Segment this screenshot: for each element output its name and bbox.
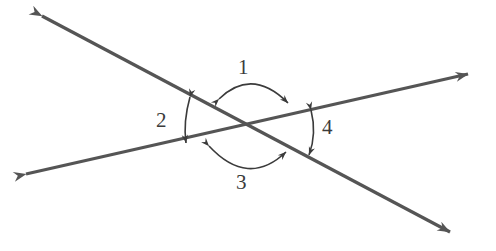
angle-4-arc [309,110,314,155]
angle-3-arc [209,146,286,169]
angle-label-3: 3 [236,172,247,193]
angle-diagram: 1 2 3 4 [0,0,496,251]
angle-label-4: 4 [322,117,333,138]
geometry-canvas [0,0,496,251]
angle-label-1: 1 [238,57,249,78]
angle-1-arc [219,84,288,103]
angle-label-2: 2 [156,110,167,131]
line-rising [26,74,468,174]
